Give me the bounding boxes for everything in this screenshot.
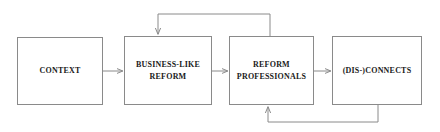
feedback-arrow-connects-to-reform <box>268 105 378 122</box>
node-business-like-reform: BUSINESS-LIKE REFORM <box>124 36 212 105</box>
node-business-like-reform-label: BUSINESS-LIKE REFORM <box>134 59 202 82</box>
node-context: CONTEXT <box>17 37 103 105</box>
flow-diagram: CONTEXT BUSINESS-LIKE REFORM REFORM PROF… <box>0 0 440 132</box>
node-reform-professionals: REFORM PROFESSIONALS <box>229 36 314 105</box>
node-dis-connects: (DIS-)CONNECTS <box>332 36 422 105</box>
node-dis-connects-label: (DIS-)CONNECTS <box>341 65 414 77</box>
node-reform-professionals-label: REFORM PROFESSIONALS <box>235 59 308 82</box>
node-context-label: CONTEXT <box>38 65 83 77</box>
feedback-arrow-reform-to-business <box>158 14 270 36</box>
